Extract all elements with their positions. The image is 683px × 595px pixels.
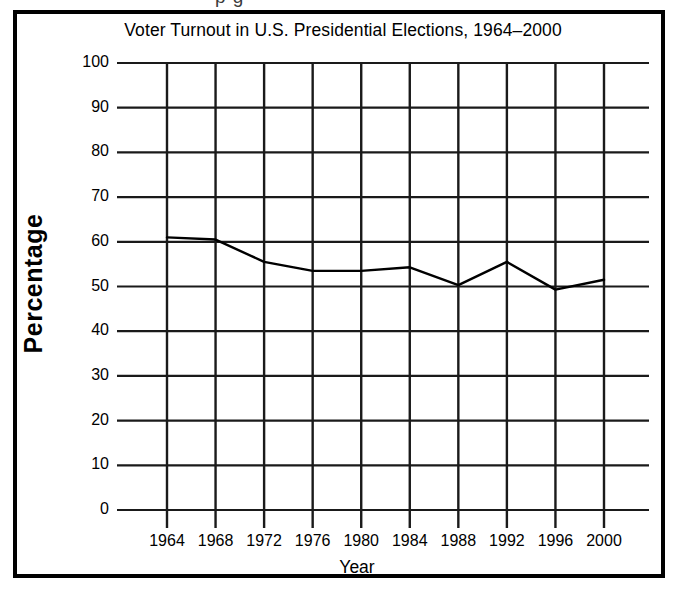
y-tick-label: 0 xyxy=(69,500,109,518)
figure-frame: Voter Turnout in U.S. Presidential Elect… xyxy=(13,10,665,578)
y-tick-label: 80 xyxy=(69,142,109,160)
y-tick-label: 70 xyxy=(69,187,109,205)
y-tick-label: 100 xyxy=(69,53,109,71)
y-tick-label: 20 xyxy=(69,411,109,429)
y-tick-label: 90 xyxy=(69,98,109,116)
y-tick-label: 60 xyxy=(69,232,109,250)
voter-turnout-line xyxy=(167,237,604,289)
line-chart-plot xyxy=(17,14,669,582)
page-top-cut-off-sliver: p g xyxy=(0,0,683,9)
y-tick-label: 40 xyxy=(69,321,109,339)
cut-off-text: p g xyxy=(215,0,244,8)
x-axis-title: Year xyxy=(117,557,597,578)
y-tick-label: 10 xyxy=(69,455,109,473)
vertical-gridlines xyxy=(167,63,604,528)
y-tick-label: 30 xyxy=(69,366,109,384)
y-tick-label: 50 xyxy=(69,277,109,295)
x-tick-label: 2000 xyxy=(574,532,634,550)
